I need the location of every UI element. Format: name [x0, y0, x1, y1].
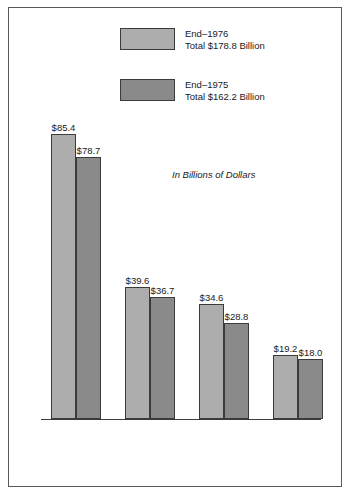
- legend-series-total: Total $162.2 Billion: [185, 91, 265, 103]
- legend-swatch-end-1975: [120, 79, 175, 101]
- legend-series-name: End–1976: [185, 28, 228, 39]
- bar-value-label: $39.6: [126, 275, 150, 286]
- bar[interactable]: $36.7: [150, 297, 175, 419]
- bar[interactable]: $19.2: [273, 355, 298, 419]
- legend-series-name: End–1975: [185, 79, 228, 90]
- legend-swatch-end-1976: [120, 28, 175, 50]
- legend-entry-end-1976: End–1976 Total $178.8 Billion: [120, 28, 265, 51]
- x-axis-baseline: [41, 419, 321, 420]
- bar-value-label: $36.7: [151, 285, 175, 296]
- legend-label-end-1976: End–1976 Total $178.8 Billion: [185, 28, 265, 51]
- bar-value-label: $28.8: [225, 311, 249, 322]
- legend-series-total: Total $178.8 Billion: [185, 40, 265, 52]
- bar[interactable]: $78.7: [76, 157, 101, 419]
- plot-area: $85.4$78.7CommercialBanks$39.6$36.7Finan…: [41, 113, 331, 420]
- legend-entry-end-1975: End–1975 Total $162.2 Billion: [120, 79, 265, 102]
- bar-value-label: $85.4: [52, 122, 76, 133]
- bar-value-label: $34.6: [200, 292, 224, 303]
- bar-value-label: $78.7: [77, 145, 101, 156]
- legend-label-end-1975: End–1975 Total $162.2 Billion: [185, 79, 265, 102]
- bar-value-label: $19.2: [274, 343, 298, 354]
- bar-value-label: $18.0: [299, 347, 323, 358]
- chart-frame: End–1976 Total $178.8 Billion End–1975 T…: [8, 7, 342, 487]
- bar[interactable]: $39.6: [125, 287, 150, 419]
- bar[interactable]: $34.6: [199, 304, 224, 419]
- bar[interactable]: $28.8: [224, 323, 249, 419]
- bar[interactable]: $18.0: [298, 359, 323, 419]
- bar[interactable]: $85.4: [51, 134, 76, 419]
